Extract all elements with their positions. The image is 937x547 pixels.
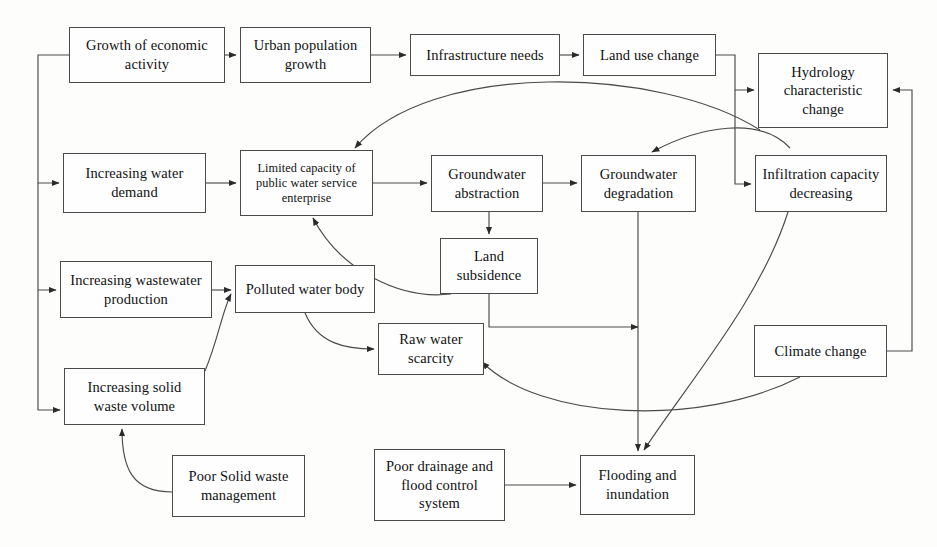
diagram-canvas: Growth of economic activity Urban popula… [0,0,937,547]
node-groundwater-abstraction[interactable]: Groundwater abstraction [431,155,543,212]
node-label: Raw water scarcity [399,330,462,367]
node-label: Growth of economic activity [86,36,208,73]
node-climate-change[interactable]: Climate change [754,325,887,377]
node-poor-solid-waste-management[interactable]: Poor Solid waste management [172,455,305,517]
edge-landuse-to-infiltration [735,90,751,184]
edge-growth-to-solidwaste [38,290,60,410]
node-label: Poor Solid waste management [189,467,289,504]
node-flooding-and-inundation[interactable]: Flooding and inundation [580,455,695,515]
node-label: Polluted water body [246,280,365,299]
node-label: Urban population growth [254,36,357,73]
edge-climate-to-hydrology [887,90,912,351]
edge-infiltration-to-degradation [652,128,790,152]
node-label: Increasing solid waste volume [88,378,182,415]
node-polluted-water-body[interactable]: Polluted water body [235,265,375,313]
edge-climate-to-rawwater [482,362,800,411]
edge-landuse-to-hydrology [716,55,754,90]
node-label: Groundwater degradation [600,165,678,202]
node-growth-of-economic-activity[interactable]: Growth of economic activity [69,27,225,83]
node-label: Infiltration capacity decreasing [763,165,880,202]
node-increasing-solid-waste-volume[interactable]: Increasing solid waste volume [64,368,205,425]
node-label: Land use change [600,46,699,65]
edge-subsidence-to-flooding [489,294,638,327]
edge-poormgmt-to-solidwaste [122,429,172,492]
node-label: Infrastructure needs [426,46,544,65]
node-label: Land subsidence [457,247,522,284]
node-label: Flooding and inundation [598,466,676,503]
edge-hydrology-to-limited [355,82,760,148]
node-label: Increasing water demand [86,164,184,201]
node-label: Limited capacity of public water service… [256,161,357,206]
node-poor-drainage-and-flood-control-system[interactable]: Poor drainage and flood control system [374,449,505,521]
node-land-subsidence[interactable]: Land subsidence [440,238,538,294]
node-raw-water-scarcity[interactable]: Raw water scarcity [378,323,484,375]
node-label: Poor drainage and flood control system [386,457,493,513]
node-label: Increasing wastewater production [70,271,201,308]
node-land-use-change[interactable]: Land use change [583,34,716,76]
node-label: Climate change [775,342,867,361]
node-increasing-wastewater-production[interactable]: Increasing wastewater production [60,261,212,318]
node-infiltration-capacity-decreasing[interactable]: Infiltration capacity decreasing [755,155,887,212]
node-label: Groundwater abstraction [448,165,526,202]
node-infrastructure-needs[interactable]: Infrastructure needs [410,34,560,76]
node-limited-capacity-of-public-water-service-enterprise[interactable]: Limited capacity of public water service… [240,150,373,216]
node-groundwater-degradation[interactable]: Groundwater degradation [581,155,696,212]
node-hydrology-characteristic-change[interactable]: Hydrology characteristic change [758,53,888,128]
edge-growth-to-wastewater [38,183,56,290]
node-increasing-water-demand[interactable]: Increasing water demand [63,153,206,213]
edge-polluted-to-rawwater [305,313,374,349]
node-label: Hydrology characteristic change [784,63,863,119]
node-urban-population-growth[interactable]: Urban population growth [240,27,371,83]
